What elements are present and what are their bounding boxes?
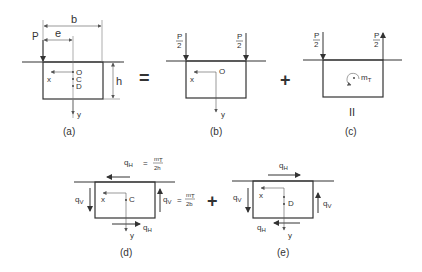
point-o: O (219, 67, 225, 76)
label-y: y (221, 110, 225, 119)
equals-vertical: II (349, 106, 355, 118)
caption-e: (e) (277, 247, 289, 258)
load-left-num: P (177, 32, 182, 41)
label-p: P (32, 31, 39, 42)
label-h: h (116, 75, 122, 87)
plus-sign-2: + (207, 191, 218, 211)
equals-sign: = (139, 68, 150, 88)
label-y: y (77, 110, 81, 119)
load-left-den: 2 (177, 41, 182, 50)
plus-sign-1: + (280, 70, 291, 90)
caption-b: (b) (210, 126, 222, 137)
caption-d: (d) (120, 247, 132, 258)
qv-right-den: 2b (186, 201, 193, 207)
point-d: D (288, 199, 294, 208)
point-d: D (76, 82, 82, 91)
qh-top-label: qH (279, 161, 288, 171)
panel-b: P 2 P 2 x y O (b) (166, 32, 266, 137)
qh-top-label: qH (124, 158, 133, 168)
qh-top-eq: = (143, 159, 148, 168)
load-right-num: P (374, 31, 379, 40)
box-section (323, 60, 383, 97)
load-right-num: P (237, 32, 242, 41)
label-y: y (288, 231, 292, 240)
caption-a: (a) (63, 126, 75, 137)
qv-right-eq: = (177, 196, 182, 205)
panel-d: qH = mT 2h qV qV = mT 2b qH x y C (d) (74, 156, 195, 258)
qh-bottom-label: qH (257, 223, 266, 233)
panel-e: qH qV qV qH x y D (e) (232, 161, 334, 258)
qv-right-num: mT (186, 192, 195, 199)
panel-c: P 2 P 2 mT II (c) (303, 31, 402, 137)
qh-top-den: 2h (154, 165, 161, 171)
label-b: b (71, 13, 77, 25)
label-x: x (101, 195, 105, 204)
load-left-den: 2 (314, 40, 319, 49)
load-left-num: P (314, 31, 319, 40)
panel-a: b e P h x y O C D (a) (22, 13, 124, 137)
label-y: y (130, 231, 134, 240)
load-right-den: 2 (374, 40, 379, 49)
qv-left-label: qV (233, 193, 241, 203)
moment-label: mT (361, 73, 372, 83)
label-e: e (55, 27, 61, 39)
label-x: x (47, 75, 51, 84)
point-c: C (129, 195, 135, 204)
qv-right-label: qV (163, 195, 171, 205)
label-x: x (190, 75, 194, 84)
qv-right-label: qV (323, 199, 331, 209)
qv-left-label: qV (75, 195, 83, 205)
caption-c: (c) (345, 126, 357, 137)
load-right-den: 2 (237, 41, 242, 50)
label-x: x (259, 191, 263, 200)
diagram-canvas: b e P h x y O C D (a) = P 2 P (0, 0, 422, 272)
qh-top-num: mT (154, 156, 163, 163)
qh-bottom-label: qH (143, 223, 152, 233)
moment-arrow-icon (347, 73, 359, 85)
